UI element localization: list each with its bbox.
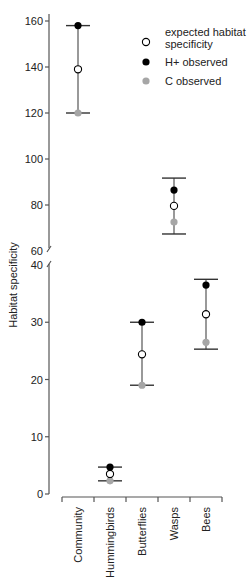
point-c-observed [106, 477, 113, 484]
chart: 6080100120140160010203040CommunityHummin… [0, 0, 250, 577]
point-c-observed [138, 382, 145, 389]
y-tick-label: 160 [25, 15, 43, 27]
point-expected [106, 470, 113, 477]
x-tick-label: Community [72, 507, 84, 563]
legend-label: H+ observed [165, 56, 228, 68]
legend-marker-c [142, 77, 149, 84]
point-h-plus-observed [170, 186, 177, 193]
legend: expected habitatspecificityH+ observedC … [142, 26, 245, 87]
point-c-observed [74, 109, 81, 116]
x-tick-label: Butterflies [136, 507, 148, 556]
point-expected [138, 351, 145, 358]
point-expected [74, 66, 81, 73]
x-tick-label: Bees [200, 507, 212, 533]
point-c-observed [202, 339, 209, 346]
error-bars [66, 26, 218, 481]
y-tick-label: 60 [31, 245, 43, 257]
data-points [74, 22, 209, 484]
point-h-plus-observed [138, 319, 145, 326]
legend-label: C observed [165, 75, 221, 87]
point-h-plus-observed [74, 22, 81, 29]
y-tick-label: 0 [37, 488, 43, 500]
y-tick-label: 40 [31, 259, 43, 271]
y-axis-title: Habitat specificity [7, 242, 19, 328]
axes: 6080100120140160010203040CommunityHummin… [25, 14, 222, 577]
legend-label: expected habitat [165, 26, 246, 38]
point-h-plus-observed [202, 281, 209, 288]
x-tick-label: Wasps [168, 507, 180, 541]
point-expected [202, 311, 209, 318]
y-tick-label: 100 [25, 153, 43, 165]
legend-marker-h-plus [142, 58, 149, 65]
y-tick-label: 120 [25, 107, 43, 119]
y-tick-label: 140 [25, 61, 43, 73]
point-expected [170, 202, 177, 209]
legend-marker-expected [142, 38, 149, 45]
y-tick-label: 30 [31, 316, 43, 328]
legend-label: specificity [165, 38, 213, 50]
y-tick-label: 10 [31, 431, 43, 443]
point-c-observed [170, 218, 177, 225]
y-tick-label: 80 [31, 199, 43, 211]
point-h-plus-observed [106, 463, 113, 470]
x-tick-label: Hummingbirds [104, 507, 116, 577]
y-tick-label: 20 [31, 374, 43, 386]
